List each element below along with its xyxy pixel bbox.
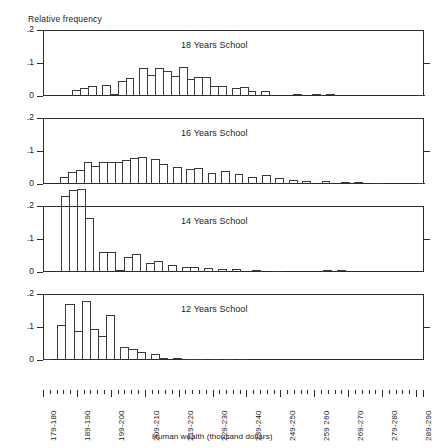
histogram-bar (224, 359, 233, 360)
x-tick (382, 390, 389, 397)
y-tick-label-mid: .1 (14, 322, 34, 331)
x-tick (219, 390, 226, 394)
histogram-bar (221, 171, 230, 184)
y-tick-zero (37, 272, 43, 273)
histogram-bar (262, 175, 271, 184)
histogram-bar (312, 94, 321, 96)
histogram-bar (190, 267, 199, 272)
x-tick (267, 390, 274, 394)
histogram-bar (159, 358, 168, 360)
y-tick-label-mid: .1 (14, 146, 34, 155)
histogram-bar (196, 359, 205, 360)
x-tick (341, 390, 348, 394)
histogram-bar (261, 91, 270, 96)
histogram-bar (159, 164, 168, 184)
panel-12-years: .2 .1 0 12 Years School (43, 294, 424, 360)
y-tick-zero (37, 184, 43, 185)
y-tick-zero (37, 360, 43, 361)
x-tick-label: 199-200 (117, 410, 126, 441)
x-tick (179, 390, 186, 397)
bars-14-years (43, 206, 424, 272)
x-tick (402, 390, 409, 394)
x-tick (145, 390, 152, 397)
histogram-bar (302, 181, 311, 184)
histogram-bar (248, 177, 257, 184)
histogram-bar (218, 86, 227, 96)
y-tick-right-mid (424, 63, 430, 64)
histogram-bar (354, 182, 363, 184)
x-tick (280, 390, 287, 397)
histogram-bar (173, 358, 182, 360)
histogram-bar (218, 269, 227, 272)
x-tick (355, 390, 362, 394)
histogram-bar (248, 91, 257, 96)
x-axis-label: Human wealth (thousand dollars) (152, 432, 273, 441)
x-tick (97, 390, 104, 394)
histogram-bar (107, 252, 116, 272)
histogram-bar (138, 157, 147, 184)
y-tick-right-mid (424, 151, 430, 152)
histogram-bar (88, 86, 97, 96)
x-tick (43, 390, 50, 397)
x-tick (158, 390, 165, 394)
histogram-bar (252, 270, 261, 272)
x-tick (77, 390, 84, 397)
x-tick (199, 390, 206, 394)
histogram-bar (416, 95, 425, 96)
x-tick (213, 390, 220, 397)
x-tick (294, 390, 301, 394)
histogram-bar (322, 181, 331, 184)
x-tick (253, 390, 260, 394)
histogram-bar (132, 254, 141, 272)
y-tick-label-top: .2 (14, 25, 34, 34)
y-tick-label-top: .2 (14, 289, 34, 298)
bars-16-years (43, 118, 424, 184)
x-tick (314, 390, 321, 397)
histogram-bar (289, 180, 298, 184)
histogram-bar (126, 78, 135, 96)
y-tick-right-mid (424, 327, 430, 328)
x-tick (50, 390, 57, 394)
y-tick-label-zero: 0 (14, 267, 34, 276)
histogram-bar (374, 183, 383, 184)
x-tick (416, 390, 423, 397)
x-tick (165, 390, 172, 394)
x-tick-label: 269-270 (356, 410, 365, 441)
histogram-bar (85, 218, 94, 272)
panel-18-years: .2 .1 0 18 Years School (43, 30, 424, 96)
x-tick (124, 390, 131, 394)
x-tick (389, 390, 396, 394)
x-tick (206, 390, 213, 394)
x-tick (328, 390, 335, 394)
x-tick (301, 390, 308, 394)
x-tick (172, 390, 179, 394)
x-tick (396, 390, 403, 394)
y-tick-label-zero: 0 (14, 91, 34, 100)
panel-14-years: .2 .1 0 14 Years School (43, 206, 424, 272)
x-tick (375, 390, 382, 394)
x-tick (335, 390, 342, 394)
histogram-bar (275, 178, 284, 184)
x-tick (233, 390, 240, 394)
y-axis-label: Relative frequency (28, 14, 102, 24)
y-tick-label-zero: 0 (14, 355, 34, 364)
histogram-bar (341, 182, 350, 184)
x-tick (192, 390, 199, 394)
x-tick-label: 189-190 (83, 410, 92, 441)
x-tick-label: 179-180 (49, 410, 58, 441)
x-tick (185, 390, 192, 394)
x-tick (152, 390, 159, 394)
y-tick-label-top: .2 (14, 113, 34, 122)
x-tick (138, 390, 145, 394)
x-tick (307, 390, 314, 394)
histogram-bar (194, 168, 203, 185)
histogram-bar (204, 268, 213, 272)
x-tick (84, 390, 91, 394)
x-tick (118, 390, 125, 394)
x-tick (104, 390, 111, 394)
histogram-bar (232, 269, 241, 272)
y-tick-label-zero: 0 (14, 179, 34, 188)
y-tick-zero (37, 96, 43, 97)
bars-18-years (43, 30, 424, 96)
x-tick (63, 390, 70, 394)
